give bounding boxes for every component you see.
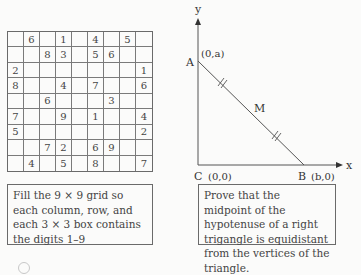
equal-tick-mark-icon <box>272 131 281 141</box>
midpoint-label: M <box>254 102 265 115</box>
equal-tick-mark-icon <box>218 78 227 88</box>
proof-caption: Prove that the midpoint of the hypotenus… <box>198 184 336 245</box>
x-axis-arrow-icon <box>336 162 343 168</box>
point-a-coord: (0,a) <box>201 48 224 59</box>
hypotenuse <box>198 61 304 165</box>
point-c-coord: (0,0) <box>208 171 232 182</box>
point-b-coord: (b,0) <box>311 171 335 182</box>
point-b-label: B <box>298 170 306 183</box>
point-a-label: A <box>185 56 195 69</box>
y-axis-label: y <box>194 3 202 16</box>
x-axis-label: x <box>346 159 353 172</box>
y-axis-arrow-icon <box>195 18 201 25</box>
point-c-label: C <box>194 170 202 183</box>
circle-icon <box>18 262 30 274</box>
